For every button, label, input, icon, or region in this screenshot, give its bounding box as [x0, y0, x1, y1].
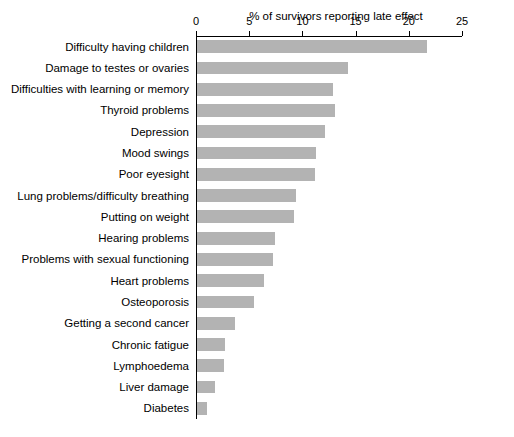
category-label: Lung problems/difficulty breathing — [17, 190, 189, 202]
bar — [197, 317, 235, 330]
category-label: Putting on weight — [101, 211, 189, 223]
bar-row: Thyroid problems — [196, 100, 462, 121]
chart-title: % of survivors reporting late effect — [196, 10, 476, 22]
category-label: Depression — [131, 126, 189, 138]
x-axis-tick-label: 0 — [193, 15, 199, 27]
bar-row: Problems with sexual functioning — [196, 249, 462, 270]
bar — [197, 402, 207, 415]
category-label: Lymphoedema — [113, 360, 189, 372]
bar-row: Diabetes — [196, 398, 462, 419]
bar-row: Damage to testes or ovaries — [196, 57, 462, 78]
x-axis-tick — [462, 31, 463, 36]
bar-chart: % of survivors reporting late effect 051… — [0, 0, 514, 437]
category-label: Mood swings — [122, 147, 189, 159]
category-label: Poor eyesight — [119, 168, 189, 180]
bar-row: Mood swings — [196, 142, 462, 163]
bar-row: Chronic fatigue — [196, 334, 462, 355]
bar — [197, 253, 273, 266]
bar-row: Heart problems — [196, 270, 462, 291]
category-label: Chronic fatigue — [112, 339, 189, 351]
category-label: Problems with sexual functioning — [22, 253, 189, 265]
bar-row: Putting on weight — [196, 206, 462, 227]
bar — [197, 296, 254, 309]
bar-row: Lymphoedema — [196, 355, 462, 376]
category-label: Difficulty having children — [65, 41, 189, 53]
bar-row: Lung problems/difficulty breathing — [196, 185, 462, 206]
category-label: Getting a second cancer — [64, 317, 189, 329]
x-axis-tick-label: 20 — [403, 15, 415, 27]
category-label: Damage to testes or ovaries — [45, 62, 189, 74]
category-label: Diabetes — [144, 402, 189, 414]
bar — [197, 62, 348, 75]
category-label: Heart problems — [110, 275, 189, 287]
category-label: Hearing problems — [98, 232, 189, 244]
category-label: Difficulties with learning or memory — [11, 83, 189, 95]
x-axis-tick-label: 5 — [246, 15, 252, 27]
category-label: Liver damage — [119, 381, 189, 393]
bar — [197, 83, 333, 96]
bar-row: Osteoporosis — [196, 291, 462, 312]
bar-row: Hearing problems — [196, 228, 462, 249]
x-axis-tick-label: 15 — [349, 15, 361, 27]
bar-row: Poor eyesight — [196, 164, 462, 185]
plot-area: 0510152025Difficulty having childrenDama… — [196, 36, 462, 419]
category-label: Osteoporosis — [121, 296, 189, 308]
bar-row: Liver damage — [196, 376, 462, 397]
bar — [197, 104, 335, 117]
bar — [197, 189, 296, 202]
bar — [197, 338, 225, 351]
bar — [197, 147, 316, 160]
x-axis-tick-label: 10 — [296, 15, 308, 27]
bar — [197, 40, 427, 53]
bar-row: Difficulty having children — [196, 36, 462, 57]
bar-row: Depression — [196, 121, 462, 142]
bar — [197, 232, 275, 245]
bar — [197, 274, 264, 287]
x-axis-tick-label: 25 — [456, 15, 468, 27]
bar — [197, 210, 294, 223]
bar — [197, 381, 215, 394]
bar-row: Difficulties with learning or memory — [196, 79, 462, 100]
bar — [197, 359, 224, 372]
bar — [197, 168, 315, 181]
bar — [197, 125, 325, 138]
bar-row: Getting a second cancer — [196, 313, 462, 334]
category-label: Thyroid problems — [100, 104, 189, 116]
